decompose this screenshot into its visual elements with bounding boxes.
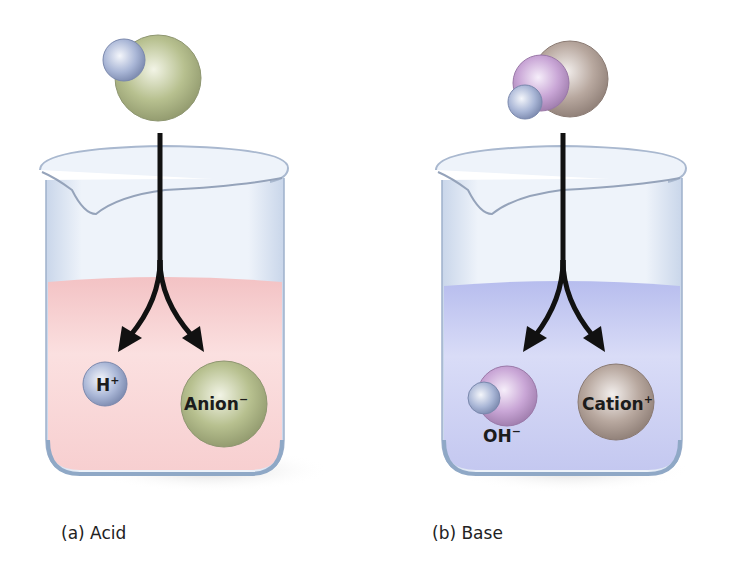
base-molecule bbox=[508, 41, 608, 119]
h-ion: H+ bbox=[83, 362, 127, 406]
svg-text:Cation+: Cation+ bbox=[582, 393, 653, 414]
hydrogen-sphere bbox=[103, 39, 145, 81]
base-solution bbox=[444, 281, 680, 470]
acid-base-diagram: H+ Anion− bbox=[0, 0, 737, 563]
caption-acid: (a) Acid bbox=[61, 523, 126, 543]
acid-panel: H+ Anion− bbox=[40, 35, 330, 492]
cation-ion: Cation+ bbox=[578, 364, 654, 440]
hydrogen-sphere bbox=[508, 85, 542, 119]
svg-text:Anion−: Anion− bbox=[184, 393, 248, 414]
acid-molecule bbox=[103, 35, 201, 121]
anion-ion: Anion− bbox=[181, 361, 267, 447]
base-panel: OH− Cation+ bbox=[436, 41, 690, 492]
caption-base: (b) Base bbox=[432, 523, 503, 543]
